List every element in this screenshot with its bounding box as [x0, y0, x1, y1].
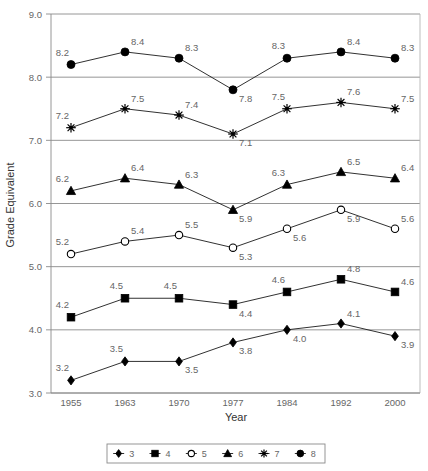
- x-tick-label: 1977: [222, 397, 243, 408]
- x-tick-label: 1992: [330, 397, 351, 408]
- marker-triangle: [336, 167, 345, 175]
- point-label: 6.3: [185, 169, 198, 180]
- x-axis-title: Year: [225, 411, 248, 423]
- marker-circle-filled: [337, 48, 345, 56]
- point-label: 7.8: [239, 93, 252, 104]
- legend-label: 6: [238, 449, 243, 459]
- marker-star: [228, 129, 238, 139]
- legend-label: 7: [275, 449, 280, 459]
- marker-circle-filled: [283, 54, 291, 62]
- y-axis-tick-labels: 3.04.05.06.07.08.09.0: [29, 9, 42, 399]
- point-label: 5.3: [239, 251, 252, 262]
- point-label: 8.2: [56, 47, 69, 58]
- point-label: 5.9: [347, 213, 360, 224]
- marker-triangle: [228, 205, 237, 213]
- marker-star: [260, 449, 268, 457]
- marker-diamond: [284, 325, 291, 334]
- point-label: 8.3: [185, 42, 198, 53]
- point-label: 3.5: [185, 364, 198, 375]
- point-label: 6.5: [347, 156, 360, 167]
- legend-label: 8: [311, 449, 316, 459]
- marker-star: [282, 104, 292, 114]
- point-label: 7.4: [185, 99, 198, 110]
- marker-square: [67, 313, 75, 321]
- marker-square: [175, 294, 183, 302]
- y-tick-label: 6.0: [29, 198, 42, 209]
- point-label: 6.4: [401, 162, 414, 173]
- point-label: 5.6: [401, 213, 414, 224]
- point-label: 4.4: [239, 308, 252, 319]
- marker-star: [336, 98, 346, 108]
- marker-circle-open: [67, 250, 74, 257]
- marker-circle-open: [283, 225, 290, 232]
- point-label: 5.4: [131, 225, 144, 236]
- marker-circle-filled: [297, 450, 304, 457]
- legend-label: 4: [166, 449, 171, 459]
- legend-label: 5: [202, 449, 207, 459]
- marker-circle-filled: [67, 61, 75, 69]
- gridlines-group: [51, 14, 420, 393]
- marker-square: [283, 288, 291, 296]
- point-label: 7.5: [131, 93, 144, 104]
- point-label: 4.0: [293, 333, 306, 344]
- marker-star: [390, 104, 400, 114]
- legend-box: [107, 444, 325, 463]
- point-label: 4.5: [110, 280, 123, 291]
- marker-star: [66, 123, 76, 133]
- point-label: 5.5: [185, 219, 198, 230]
- y-tick-label: 8.0: [29, 72, 42, 83]
- point-label: 6.2: [56, 173, 69, 184]
- x-tick-label: 1970: [168, 397, 189, 408]
- marker-circle-open: [229, 244, 236, 251]
- point-label: 8.4: [347, 36, 360, 47]
- marker-circle-filled: [229, 86, 237, 94]
- point-label: 5.9: [239, 213, 252, 224]
- marker-circle-open: [175, 231, 182, 238]
- x-tick-label: 1955: [60, 397, 81, 408]
- marker-circle-open: [337, 206, 344, 213]
- point-label: 3.2: [56, 362, 69, 373]
- marker-diamond: [176, 357, 183, 366]
- marker-circle-open: [121, 238, 128, 245]
- point-label: 7.5: [401, 93, 414, 104]
- legend-label: 3: [129, 449, 134, 459]
- y-axis-title: Grade Equivalent: [4, 163, 16, 248]
- marker-circle-filled: [175, 54, 183, 62]
- x-tick-label: 1963: [114, 397, 135, 408]
- point-label: 3.5: [110, 343, 123, 354]
- point-label: 8.3: [401, 42, 414, 53]
- y-tick-label: 5.0: [29, 261, 42, 272]
- line-chart: 3.04.05.06.07.08.09.0 195519631970197719…: [0, 0, 428, 471]
- point-label: 8.3: [272, 40, 285, 51]
- point-label: 6.4: [131, 162, 144, 173]
- point-label: 4.1: [347, 308, 360, 319]
- point-label: 8.4: [131, 36, 144, 47]
- point-label: 4.5: [164, 280, 177, 291]
- point-label: 7.2: [56, 110, 69, 121]
- marker-diamond: [338, 319, 345, 328]
- x-tick-label: 2000: [384, 397, 405, 408]
- marker-diamond: [122, 357, 129, 366]
- point-label: 4.6: [401, 276, 414, 287]
- marker-square: [229, 301, 237, 309]
- marker-circle-filled: [391, 54, 399, 62]
- marker-square: [121, 294, 129, 302]
- marker-diamond: [230, 338, 237, 347]
- point-label: 3.8: [239, 345, 252, 356]
- point-label: 4.6: [272, 274, 285, 285]
- marker-star: [174, 110, 184, 120]
- x-axis-tick-labels: 1955196319701977198419922000: [60, 397, 405, 408]
- marker-triangle: [120, 174, 129, 182]
- marker-circle-filled: [121, 48, 129, 56]
- x-tick-label: 1984: [276, 397, 297, 408]
- marker-circle-open: [188, 450, 194, 456]
- marker-square: [391, 288, 399, 296]
- chart-legend[interactable]: 345678: [107, 444, 325, 463]
- marker-star: [120, 104, 130, 114]
- y-tick-label: 7.0: [29, 135, 42, 146]
- marker-square: [337, 276, 345, 284]
- series-line-6: [71, 172, 395, 210]
- y-tick-label: 3.0: [29, 388, 42, 399]
- point-label: 5.2: [56, 236, 69, 247]
- y-tick-label: 9.0: [29, 9, 42, 20]
